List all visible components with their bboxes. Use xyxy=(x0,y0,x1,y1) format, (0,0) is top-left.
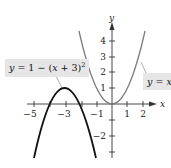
y-tick-label: 2 xyxy=(100,67,106,77)
y-tick-label: −2 xyxy=(93,131,106,141)
x-axis-arrow-icon xyxy=(149,102,157,107)
equation-label-x-squared: y = x2 xyxy=(143,73,171,90)
curve-downward-parabola xyxy=(34,88,96,158)
x-axis-label: x xyxy=(160,99,165,109)
y-tick-label: 4 xyxy=(100,36,106,46)
y-axis-arrow-icon xyxy=(110,22,115,30)
eq-right-x: x xyxy=(166,76,171,87)
y-tick-label: 1 xyxy=(100,83,106,93)
x-axis xyxy=(27,101,157,107)
equation-label-downward-parabola: y = 1 − (x + 3)2 xyxy=(5,59,89,77)
y-axis-label: y xyxy=(108,13,115,23)
x-tick-label: −5 xyxy=(23,109,37,119)
leader-line-left xyxy=(56,76,62,88)
y-axis xyxy=(109,22,115,158)
x-tick-label: 2 xyxy=(140,109,146,119)
leader-line-right xyxy=(141,62,146,73)
x-tick-label: 1 xyxy=(124,109,130,119)
eq-right-mid: = xyxy=(152,76,166,87)
x-tick-label: −3 xyxy=(57,109,71,119)
x-tick-label: −1 xyxy=(90,109,103,119)
eq-left-mid: = 1 − ( xyxy=(14,62,52,73)
eq-left-tail: + 3) xyxy=(57,62,81,73)
y-tick-label: 3 xyxy=(100,52,106,62)
eq-left-exponent: 2 xyxy=(81,61,85,69)
